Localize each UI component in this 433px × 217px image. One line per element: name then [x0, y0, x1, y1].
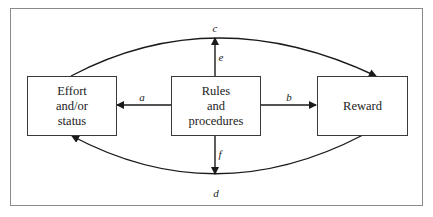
box-effort-line-2: and/or	[56, 99, 88, 114]
diagram: Effort and/or status Rules and procedure…	[0, 0, 433, 217]
box-rules-line-1: Rules	[202, 84, 230, 99]
box-rules-procedures: Rules and procedures	[171, 76, 261, 136]
figure-caption-clipped	[10, 211, 423, 217]
edge-label-a: a	[139, 91, 145, 103]
box-effort-line-1: Effort	[57, 84, 87, 99]
edge-label-b: b	[286, 91, 292, 103]
box-reward-line-1: Reward	[343, 99, 382, 114]
box-effort-line-3: status	[58, 114, 86, 129]
edge-label-c: c	[213, 22, 218, 34]
edge-label-e: e	[219, 51, 224, 63]
edge-label-d: d	[213, 187, 219, 199]
box-rules-line-2: and	[207, 99, 225, 114]
edge-label-f: f	[218, 148, 221, 160]
box-effort-status: Effort and/or status	[27, 76, 117, 136]
box-rules-line-3: procedures	[189, 114, 244, 129]
box-reward: Reward	[317, 76, 408, 136]
